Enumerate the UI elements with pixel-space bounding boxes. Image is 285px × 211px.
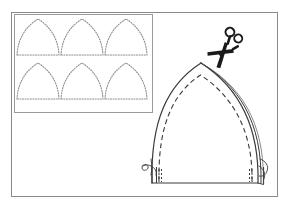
figure-page: [0, 0, 285, 211]
instruction-diagram: [0, 0, 285, 211]
pattern-layout-inset: [15, 15, 153, 113]
